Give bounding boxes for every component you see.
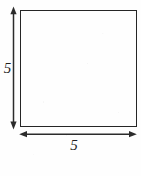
width-arrowhead-left xyxy=(19,131,27,137)
height-arrowhead-top xyxy=(10,6,16,14)
height-arrowhead-bottom xyxy=(10,122,16,130)
figure-canvas: 5 5 xyxy=(0,0,141,176)
height-dimension-label: 5 xyxy=(1,61,14,76)
width-dimension-arrow xyxy=(19,131,137,137)
width-arrowhead-right xyxy=(129,131,137,137)
width-dimension-label: 5 xyxy=(64,138,84,153)
